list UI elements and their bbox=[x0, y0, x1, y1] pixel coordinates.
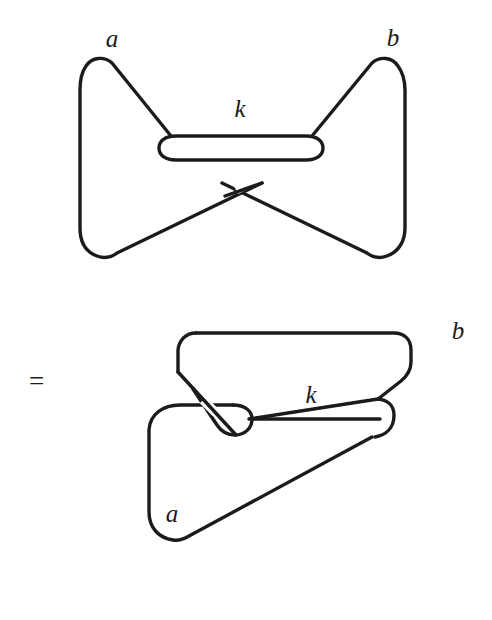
bottom-label-k: k bbox=[305, 381, 317, 408]
bottom-diagram: b k a bbox=[149, 317, 464, 540]
bottom-upper-left-corner bbox=[178, 333, 196, 372]
top-label-k: k bbox=[234, 95, 246, 122]
top-label-a: a bbox=[106, 25, 119, 52]
knot-diagram-canvas: a b k = b k a bbox=[0, 0, 492, 620]
bottom-label-a: a bbox=[166, 500, 179, 527]
top-k-loop bbox=[159, 136, 323, 160]
top-diagram: a b k bbox=[80, 24, 405, 257]
bottom-lower-a-loop bbox=[149, 405, 372, 540]
top-label-b: b bbox=[387, 24, 400, 51]
knot-figure: a b k = b k a bbox=[0, 0, 492, 620]
equals-sign: = bbox=[29, 366, 44, 396]
bottom-label-b: b bbox=[452, 317, 465, 344]
